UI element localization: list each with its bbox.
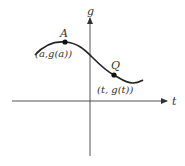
point-q-marker xyxy=(111,72,116,77)
point-a-marker xyxy=(62,39,67,44)
x-axis-label: t xyxy=(172,95,177,108)
point-a-coord-label: (a,g(a)) xyxy=(35,48,72,59)
function-graph: g t A (a,g(a)) Q (t, g(t)) xyxy=(0,0,185,166)
point-q-coord-label: (t, g(t)) xyxy=(97,84,134,95)
point-a-label: A xyxy=(59,27,68,40)
y-axis-label: g xyxy=(87,5,94,18)
point-q-label: Q xyxy=(111,59,120,72)
